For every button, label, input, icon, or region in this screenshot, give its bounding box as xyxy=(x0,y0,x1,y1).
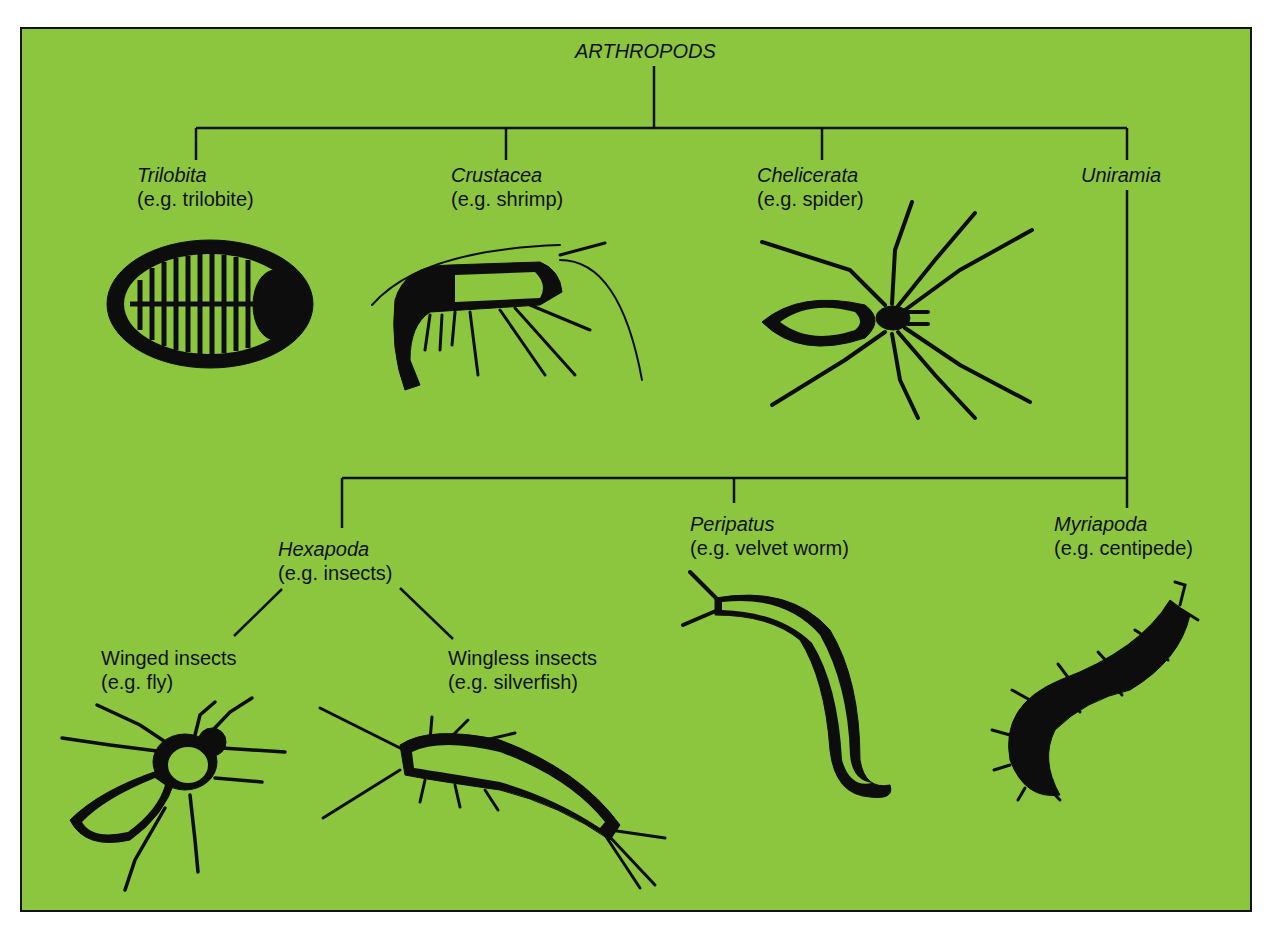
node-name: Wingless insects xyxy=(448,646,597,670)
node-name: Hexapoda xyxy=(278,537,392,561)
node-name: Myriapoda xyxy=(1054,512,1193,536)
node-example: (e.g. shrimp) xyxy=(451,187,563,211)
centipede-illustration xyxy=(992,582,1198,800)
silverfish-illustration xyxy=(320,708,665,888)
node-wingless-insects: Wingless insects (e.g. silverfish) xyxy=(448,646,597,694)
node-winged-insects: Winged insects (e.g. fly) xyxy=(101,646,237,694)
node-name: Peripatus xyxy=(690,512,849,536)
tree-connectors xyxy=(0,0,1272,934)
node-peripatus: Peripatus (e.g. velvet worm) xyxy=(690,512,849,560)
node-example: (e.g. insects) xyxy=(278,561,392,585)
node-name: Crustacea xyxy=(451,163,563,187)
node-name: Trilobita xyxy=(137,163,254,187)
trilobite-illustration xyxy=(107,240,313,368)
node-example: (e.g. silverfish) xyxy=(448,670,597,694)
shrimp-illustration xyxy=(372,243,642,390)
node-trilobita: Trilobita (e.g. trilobite) xyxy=(137,163,254,211)
node-crustacea: Crustacea (e.g. shrimp) xyxy=(451,163,563,211)
node-name: Winged insects xyxy=(101,646,237,670)
node-example: (e.g. centipede) xyxy=(1054,536,1193,560)
spider-illustration xyxy=(762,202,1032,418)
fly-illustration xyxy=(62,698,285,890)
node-chelicerata: Chelicerata (e.g. spider) xyxy=(757,163,864,211)
node-name: Chelicerata xyxy=(757,163,864,187)
node-myriapoda: Myriapoda (e.g. centipede) xyxy=(1054,512,1193,560)
velvet-worm-illustration xyxy=(683,572,891,798)
node-example: (e.g. trilobite) xyxy=(137,187,254,211)
node-example: (e.g. velvet worm) xyxy=(690,536,849,560)
node-example: (e.g. spider) xyxy=(757,187,864,211)
root-title: ARTHROPODS xyxy=(575,39,716,63)
node-example: (e.g. fly) xyxy=(101,670,237,694)
node-name: Uniramia xyxy=(1081,163,1161,187)
node-uniramia: Uniramia xyxy=(1081,163,1161,187)
node-hexapoda: Hexapoda (e.g. insects) xyxy=(278,537,392,585)
